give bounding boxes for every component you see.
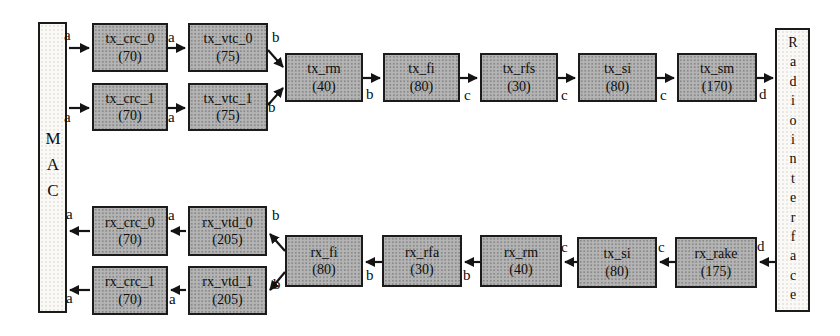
block-name: tx_vtc_1 [204,90,253,107]
block-tx_vtc_1: tx_vtc_1 (75) [188,83,268,131]
block-cost: (70) [118,291,141,308]
port-label: b [463,268,471,283]
port-label: b [273,277,281,292]
block-tx_crc_1: tx_crc_1 (70) [92,83,168,131]
radio-interface-endpoint: Radiointerface [775,28,810,312]
block-name: rx_vtd_1 [202,273,253,290]
block-rx_rfa: rx_rfa (30) [382,235,462,287]
block-rx_rake: rx_rake (175) [675,237,757,288]
block-cost: (70) [118,231,141,248]
block-name: rx_rfa [405,244,439,261]
block-cost: (80) [410,78,433,95]
port-label: b [272,208,280,223]
arrow-tx_vtc_0-tx_rm [268,50,283,67]
block-name: tx_vtc_0 [204,30,253,47]
block-cost: (30) [507,78,530,95]
block-rx_vtd_0: rx_vtd_0 (205) [188,206,267,256]
block-name: tx_sm [700,60,734,77]
block-tx_fi: tx_fi (80) [383,53,460,102]
block-name: rx_fi [310,244,337,261]
block-cost: (75) [216,48,239,65]
port-label: a [66,207,73,222]
block-cost: (75) [216,107,239,124]
block-cost: (205) [212,231,242,248]
block-tx_sm: tx_sm (170) [677,53,757,102]
block-tx_si-rx-chain: tx_si (80) [577,237,657,288]
block-tx_rm: tx_rm (40) [285,53,363,102]
block-rx_crc_0: rx_crc_0 (70) [92,206,168,256]
block-name: rx_rm [504,244,538,261]
port-label: a [168,30,175,45]
block-rx_crc_1: rx_crc_1 (70) [92,266,168,315]
block-tx_vtc_0: tx_vtc_0 (75) [188,23,268,72]
block-name: rx_crc_0 [105,214,155,231]
block-cost: (70) [118,48,141,65]
port-label: c [561,88,568,103]
block-rx_rm: rx_rm (40) [480,235,562,287]
block-name: tx_rm [307,60,340,77]
block-name: rx_crc_1 [105,273,155,290]
block-diagram: MAC Radiointerface tx_crc_0 (70) tx_vtc_… [0,0,840,336]
block-cost: (205) [212,291,242,308]
block-tx_rfs: tx_rfs (30) [480,53,558,102]
mac-label: MAC [43,129,63,207]
port-label: c [561,240,568,255]
block-name: tx_crc_1 [106,90,155,107]
block-cost: (80) [605,263,628,280]
port-label: a [169,292,176,307]
port-label: b [272,30,280,45]
block-name: tx_si [603,245,630,262]
port-label: d [757,239,765,254]
port-label: a [66,291,73,306]
port-label: a [168,208,175,223]
block-rx_fi: rx_fi (80) [285,235,363,287]
block-name: tx_rfs [503,60,536,77]
block-tx_si: tx_si (80) [578,53,657,102]
block-name: tx_fi [408,60,434,77]
block-name: tx_si [604,60,631,77]
block-name: rx_rake [695,245,738,262]
block-rx_vtd_1: rx_vtd_1 (205) [188,266,267,315]
block-tx_crc_0: tx_crc_0 (70) [92,23,168,72]
port-label: a [64,110,71,125]
port-label: c [658,240,665,255]
block-cost: (80) [606,78,629,95]
port-label: b [366,268,374,283]
port-label: b [366,87,374,102]
port-label: c [660,88,667,103]
block-cost: (40) [509,261,532,278]
port-label: c [464,88,471,103]
block-cost: (40) [312,78,335,95]
port-label: d [759,87,767,102]
port-label: a [64,28,71,43]
port-label: b [268,100,276,115]
block-cost: (70) [118,107,141,124]
block-cost: (30) [410,261,433,278]
block-name: tx_crc_0 [106,30,155,47]
port-label: a [168,110,175,125]
mac-endpoint: MAC [38,22,67,313]
block-name: rx_vtd_0 [202,214,253,231]
block-cost: (170) [702,78,732,95]
arrow-rx_fi-rx_vtd_0 [270,234,285,251]
radio-interface-label: Radiointerface [785,30,801,307]
block-cost: (80) [312,261,335,278]
block-cost: (175) [701,263,731,280]
